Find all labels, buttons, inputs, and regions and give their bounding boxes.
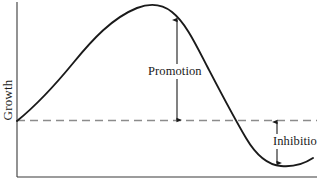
chart-canvas — [0, 0, 317, 184]
growth-curve-path — [17, 5, 313, 166]
growth-curve-figure: Growth Promotion Inhibition — [0, 0, 317, 184]
promotion-annotation-label: Promotion — [146, 64, 204, 79]
inhibition-annotation-label: Inhibition — [271, 134, 317, 149]
